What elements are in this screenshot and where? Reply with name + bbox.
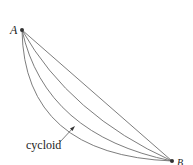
point-a-dot	[20, 28, 24, 32]
point-a-label: A	[9, 23, 18, 37]
point-b-dot	[170, 159, 174, 163]
diagram-canvas: A B cycloid	[0, 0, 193, 165]
point-b-label: B	[177, 157, 183, 165]
cycloid-label: cycloid	[26, 138, 61, 152]
